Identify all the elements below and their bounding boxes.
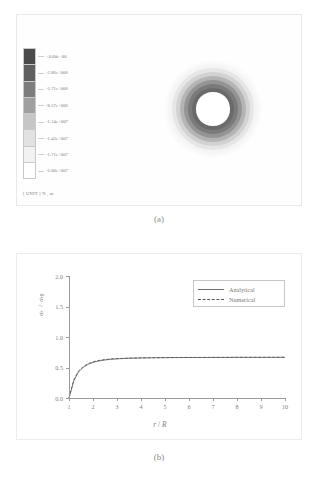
colorbar-label-2: -5.71e+006 xyxy=(46,86,68,91)
legend-label-numerical: Numerical xyxy=(229,294,255,305)
colorbar-swatch-7 xyxy=(24,163,35,178)
chart-legend: Analytical Numerical xyxy=(193,280,285,307)
x-tick-2 xyxy=(117,398,118,401)
colorbar-label-6: -1.71e+007 xyxy=(46,152,68,157)
x-tick-label-2: 3 xyxy=(110,403,124,410)
caption-panel-a: (a) xyxy=(0,214,318,224)
colorbar-unit-text: [ UNIT ] N , m xyxy=(23,191,54,196)
series-path-analytical xyxy=(69,357,285,398)
x-tick-3 xyxy=(141,398,142,401)
colorbar-tick-0 xyxy=(38,56,44,57)
colorbar-tick-7 xyxy=(38,171,44,172)
x-tick-5 xyxy=(189,398,190,401)
y-axis-line xyxy=(69,276,70,398)
radial-stress-contour xyxy=(167,63,259,155)
colorbar-label-0: +0.00e+00 xyxy=(46,54,67,59)
x-tick-label-5: 6 xyxy=(182,403,196,410)
colorbar: +0.00e+00-2.86e+006-5.71e+006-8.57e+006-… xyxy=(23,45,143,185)
colorbar-swatch-4 xyxy=(24,114,35,130)
y-tick-1 xyxy=(66,368,69,369)
colorbar-label-7: -2.00e+007 xyxy=(46,168,68,173)
x-tick-label-6: 7 xyxy=(206,403,220,410)
x-axis-label: r / R xyxy=(17,420,303,429)
colorbar-swatch-6 xyxy=(24,147,35,163)
colorbar-tick-2 xyxy=(38,89,44,90)
colorbar-tick-5 xyxy=(38,138,44,139)
y-tick-2 xyxy=(66,337,69,338)
colorbar-tick-1 xyxy=(38,73,44,74)
y-tick-label-3: 1.5 xyxy=(43,303,63,310)
y-axis-label: σr / σr0 xyxy=(37,294,45,316)
x-tick-4 xyxy=(165,398,166,401)
colorbar-label-1: -2.86e+006 xyxy=(46,70,68,75)
colorbar-labels: +0.00e+00-2.86e+006-5.71e+006-8.57e+006-… xyxy=(38,45,143,182)
x-tick-7 xyxy=(237,398,238,401)
colorbar-swatch-3 xyxy=(24,98,35,114)
legend-swatch-numerical xyxy=(198,299,224,300)
y-tick-label-1: 0.5 xyxy=(43,364,63,371)
series-path-numerical xyxy=(69,357,285,398)
colorbar-label-3: -8.57e+006 xyxy=(46,103,68,108)
colorbar-swatch-5 xyxy=(24,130,35,146)
legend-item-numerical: Numerical xyxy=(198,294,282,305)
y-tick-3 xyxy=(66,307,69,308)
x-tick-0 xyxy=(69,398,70,401)
y-tick-0 xyxy=(66,398,69,399)
colorbar-label-4: -1.14e+007 xyxy=(46,119,68,124)
caption-panel-b: (b) xyxy=(0,452,318,462)
x-tick-9 xyxy=(285,398,286,401)
legend-swatch-analytical xyxy=(198,289,224,290)
panel-a-contour-plot: +0.00e+00-2.86e+006-5.71e+006-8.57e+006-… xyxy=(16,14,302,206)
colorbar-tick-4 xyxy=(38,122,44,123)
y-tick-label-0: 0.0 xyxy=(43,395,63,402)
y-tick-label-2: 1.0 xyxy=(43,334,63,341)
colorbar-swatch-0 xyxy=(24,49,35,65)
x-tick-8 xyxy=(261,398,262,401)
x-tick-label-4: 5 xyxy=(158,403,172,410)
x-tick-6 xyxy=(213,398,214,401)
x-tick-label-3: 4 xyxy=(134,403,148,410)
x-tick-label-7: 8 xyxy=(230,403,244,410)
colorbar-tick-6 xyxy=(38,154,44,155)
colorbar-swatch-2 xyxy=(24,82,35,98)
x-tick-label-1: 2 xyxy=(86,403,100,410)
colorbar-swatches xyxy=(23,48,36,179)
colorbar-label-5: -1.43e+007 xyxy=(46,136,68,141)
x-tick-label-0: 1 xyxy=(62,403,76,410)
y-tick-label-4: 2.0 xyxy=(43,273,63,280)
panel-b-line-chart: 123456789100.00.51.01.52.0 σr / σr0 r / … xyxy=(16,253,302,440)
figure-container: +0.00e+00-2.86e+006-5.71e+006-8.57e+006-… xyxy=(0,0,318,483)
x-tick-label-8: 9 xyxy=(254,403,268,410)
x-tick-label-9: 10 xyxy=(278,403,292,410)
x-tick-1 xyxy=(93,398,94,401)
colorbar-tick-3 xyxy=(38,105,44,106)
contour-ring-7 xyxy=(196,92,229,125)
colorbar-swatch-1 xyxy=(24,65,35,81)
x-axis-line xyxy=(69,398,285,399)
y-tick-4 xyxy=(66,276,69,277)
